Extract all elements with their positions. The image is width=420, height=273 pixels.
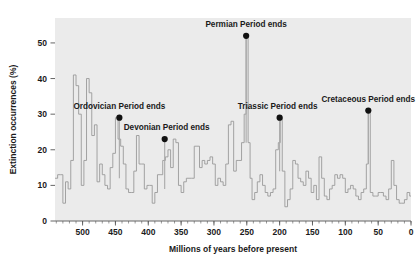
y-axis-tick-label: 0 xyxy=(42,216,47,226)
x-axis-tick-label: 450 xyxy=(108,227,122,237)
annotation-marker-dot xyxy=(162,136,168,142)
annotation-marker-dot xyxy=(365,108,371,114)
extinction-intensity-line-chart: 5004504003503002502001501005000102030405… xyxy=(0,0,420,273)
x-axis-tick-label: 500 xyxy=(75,227,89,237)
x-axis-tick-label: 400 xyxy=(141,227,155,237)
x-axis-title: Millions of years before present xyxy=(169,244,297,254)
extinction-chart-figure: 5004504003503002502001501005000102030405… xyxy=(0,0,420,273)
x-axis-tick-label: 200 xyxy=(273,227,287,237)
y-axis-tick-label: 40 xyxy=(38,74,48,84)
x-axis-tick-label: 100 xyxy=(338,227,352,237)
annotation-marker-dot xyxy=(243,33,249,39)
annotation-label: Triassic Period ends xyxy=(238,102,318,111)
x-axis-tick-label: 350 xyxy=(174,227,188,237)
annotation-label: Ordovician Period ends xyxy=(73,102,165,111)
y-axis-tick-label: 20 xyxy=(38,145,48,155)
x-axis-tick-label: 150 xyxy=(305,227,319,237)
annotation-label: Devonian Period ends xyxy=(124,123,210,132)
x-axis-tick-label: 250 xyxy=(240,227,254,237)
annotation-marker-dot xyxy=(277,115,283,121)
y-axis-tick-label: 30 xyxy=(38,109,48,119)
y-axis-tick-label: 10 xyxy=(38,180,48,190)
x-axis-tick-label: 50 xyxy=(373,227,383,237)
x-axis-tick-label: 0 xyxy=(409,227,414,237)
y-axis-tick-label: 50 xyxy=(38,38,48,48)
annotation-label: Cretaceous Period ends xyxy=(321,95,415,104)
y-axis-title: Extinction occurrences (%) xyxy=(8,65,18,175)
annotation-marker-dot xyxy=(116,115,122,121)
annotation-label: Permian Period ends xyxy=(205,20,287,29)
plot-area-background xyxy=(55,18,411,221)
x-axis-tick-label: 300 xyxy=(207,227,221,237)
